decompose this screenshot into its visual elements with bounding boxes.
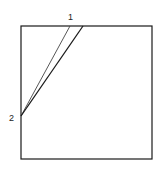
- fold-line-thick: [21, 26, 83, 116]
- diagram-canvas: 1 2: [0, 0, 165, 171]
- square-outline: [21, 26, 152, 159]
- label-point-1: 1: [68, 12, 73, 22]
- fold-line-thin: [21, 26, 70, 116]
- label-point-2: 2: [9, 113, 14, 123]
